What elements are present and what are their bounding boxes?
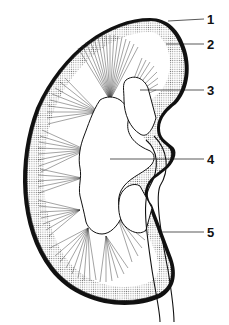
label-2: 2 xyxy=(207,38,214,51)
label-1: 1 xyxy=(207,13,214,26)
leader-line-1 xyxy=(168,19,204,21)
label-5: 5 xyxy=(207,226,214,239)
label-4: 4 xyxy=(207,153,214,166)
label-3: 3 xyxy=(207,84,214,97)
kidney-diagram xyxy=(0,0,229,325)
